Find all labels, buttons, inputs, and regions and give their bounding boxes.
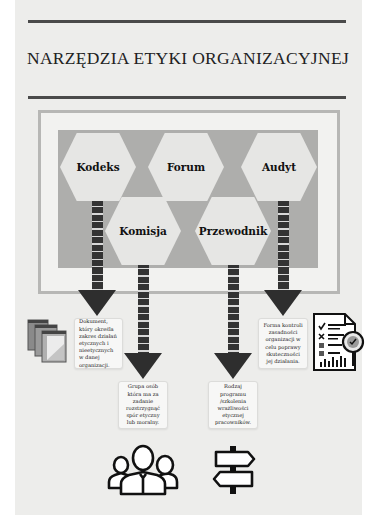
przewodnik-arrow-head <box>214 353 252 379</box>
audit-report-icon <box>311 312 367 374</box>
hexagon-label: Forum <box>167 161 205 173</box>
przewodnik-arrow-shaft <box>228 262 239 357</box>
signpost-icon <box>210 444 258 496</box>
page-title: NARZĘDZIA ETYKI ORGANIZACYJNEJ <box>0 48 376 69</box>
kodeks-arrow-head <box>78 290 116 316</box>
hexagon-label: Przewodnik <box>199 225 267 237</box>
audyt-arrow-head <box>264 290 302 316</box>
komisja-arrow-head <box>124 353 162 379</box>
people-group-icon <box>107 444 179 496</box>
audyt-description: Forma kontroli zasadności organizacji w … <box>258 318 308 369</box>
hexagon-label: Komisja <box>119 225 167 237</box>
hexagon-label: Kodeks <box>76 161 119 173</box>
komisja-arrow-shaft <box>138 262 149 357</box>
kodeks-description: Dokument, który określa zakres działań e… <box>74 318 123 369</box>
bottom-rule <box>28 96 346 99</box>
przewodnik-description: Rodzaj programu /szkolenia wrażliwości e… <box>208 381 258 429</box>
kodeks-arrow-shaft <box>92 200 103 292</box>
top-rule <box>28 20 346 23</box>
audyt-arrow-shaft <box>278 200 289 292</box>
hexagon-label: Audyt <box>262 161 296 173</box>
books-icon <box>25 316 71 364</box>
komisja-description: Grupa osób która ma za zadanie rozstrzyg… <box>118 381 168 429</box>
